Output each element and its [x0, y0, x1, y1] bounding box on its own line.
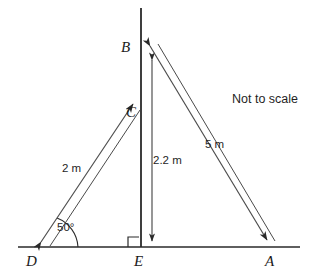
diagram-canvas: [0, 0, 319, 278]
right-angle-marker-E: [128, 237, 139, 247]
geometry-diagram: B C D E A 2 m 2.2 m 5 m 50° Not to scale: [0, 0, 319, 278]
angle-label-d: 50°: [57, 222, 74, 234]
measurement-label-eb: 2.2 m: [153, 155, 182, 167]
vertex-label-a: A: [265, 254, 274, 269]
vertex-label-e: E: [134, 254, 143, 269]
vertex-label-d: D: [26, 254, 37, 269]
vertex-label-c: C: [126, 105, 136, 120]
measurement-label-ab: 5 m: [205, 139, 224, 151]
not-to-scale-note: Not to scale: [232, 93, 298, 106]
dimension-line-2m: [41, 104, 133, 242]
vertex-label-b: B: [121, 40, 130, 55]
measurement-label-dc: 2 m: [62, 163, 81, 175]
